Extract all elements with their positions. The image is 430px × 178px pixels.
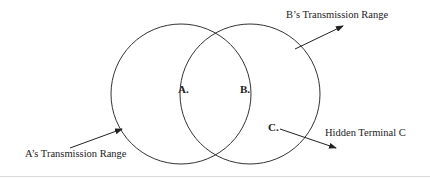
hidden-terminal-label: Hidden Terminal C	[325, 127, 406, 138]
b-range-label: B’s Transmission Range	[286, 9, 388, 20]
a-range-arrow	[70, 129, 122, 148]
bottom-divider	[0, 176, 430, 177]
point-b-label: B.	[240, 83, 250, 95]
b-range-arrow	[295, 26, 343, 49]
a-range-label: A’s Transmission Range	[25, 148, 127, 159]
point-a-label: A.	[178, 83, 189, 95]
point-c-label: C.	[268, 121, 279, 133]
